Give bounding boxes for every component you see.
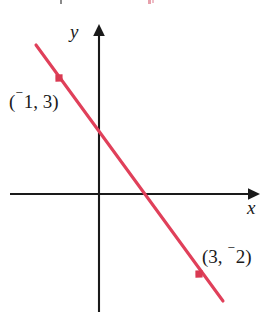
point-label-1-text: 1, 3) <box>24 91 59 112</box>
paren-open-2: (3, <box>202 246 227 267</box>
y-axis-label: y <box>70 22 78 41</box>
data-point-marker-1 <box>55 74 62 81</box>
graph-canvas <box>0 0 270 319</box>
plotted-line <box>36 45 223 301</box>
negative-sign-1: ⁻ <box>15 87 23 104</box>
coordinate-plane-figure: y x (⁻1, 3) (3, ⁻2) <box>0 0 270 319</box>
x-axis <box>10 188 260 200</box>
point-label-three-negative-two: (3, ⁻2) <box>202 243 252 266</box>
cropped-text-artifacts <box>60 0 154 4</box>
point-label-negative-one-three: (⁻1, 3) <box>9 88 59 111</box>
point-label-2-text: 2) <box>236 246 252 267</box>
y-axis <box>93 24 105 312</box>
negative-sign-2: ⁻ <box>227 242 235 259</box>
data-point-marker-2 <box>195 270 202 277</box>
x-axis-label: x <box>247 198 255 217</box>
